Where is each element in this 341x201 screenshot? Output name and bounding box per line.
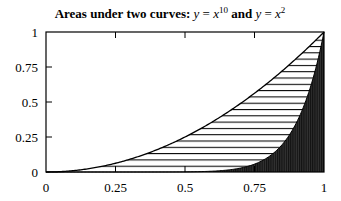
y-tick-label: 0.25	[15, 130, 38, 145]
chart-title: Areas under two curves: y = x10 and y = …	[55, 5, 286, 21]
y-axis-tick-labels: 00.250.50.751	[15, 25, 38, 180]
x-tick-label: 0	[43, 180, 50, 195]
plot-area	[46, 32, 324, 172]
x-tick-label: 0.5	[177, 180, 193, 195]
area-chart: Areas under two curves: y = x10 and y = …	[0, 0, 341, 201]
x-tick-label: 0.75	[243, 180, 266, 195]
x-tick-label: 0.25	[104, 180, 127, 195]
x-axis-tick-labels: 00.250.50.751	[43, 180, 328, 195]
y-tick-label: 1	[32, 25, 39, 40]
y-tick-label: 0	[32, 165, 39, 180]
y-tick-label: 0.5	[22, 95, 38, 110]
x-tick-label: 1	[321, 180, 328, 195]
y-tick-label: 0.75	[15, 60, 38, 75]
